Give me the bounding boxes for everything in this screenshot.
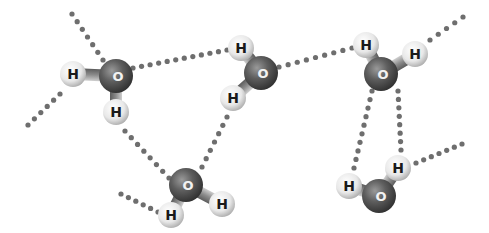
hydrogen-bond (69, 11, 105, 62)
hydrogen-bond (199, 114, 229, 169)
hydrogen-bond (118, 191, 160, 214)
water-molecule: OHH (336, 155, 411, 213)
hydrogen-label: H (343, 178, 355, 194)
hydrogen-bond (413, 141, 464, 165)
hydrogen-bond (122, 128, 171, 180)
hydrogen-label: H (110, 104, 122, 120)
hydrogen-bond (276, 45, 354, 69)
water-molecules: OHHOHHOHHOHHOHH (60, 32, 428, 228)
oxygen-label: O (377, 67, 388, 82)
hydrogen-bond (427, 14, 465, 42)
hydrogen-label: H (165, 207, 177, 223)
hydrogen-label: H (216, 196, 228, 212)
water-molecule: OHH (220, 35, 278, 111)
hydrogen-label: H (227, 90, 239, 106)
diagram-canvas: OHHOHHOHHOHHOHH (0, 0, 489, 233)
water-molecule: OHH (353, 32, 428, 91)
water-hbond-diagram: OHHOHHOHHOHHOHH (0, 0, 489, 233)
oxygen-label: O (112, 69, 123, 84)
water-molecule: OHH (60, 59, 133, 125)
hydrogen-label: H (235, 40, 247, 56)
hydrogen-bond (25, 91, 62, 127)
hydrogen-label: H (392, 160, 404, 176)
hydrogen-bond (130, 47, 229, 70)
hydrogen-label: H (67, 66, 79, 82)
oxygen-label: O (375, 189, 386, 204)
hydrogen-bond (395, 88, 403, 152)
hydrogen-bond (351, 88, 374, 170)
hydrogen-label: H (360, 37, 372, 53)
hydrogen-label: H (409, 46, 421, 62)
oxygen-label: O (257, 66, 268, 81)
oxygen-label: O (182, 178, 193, 193)
